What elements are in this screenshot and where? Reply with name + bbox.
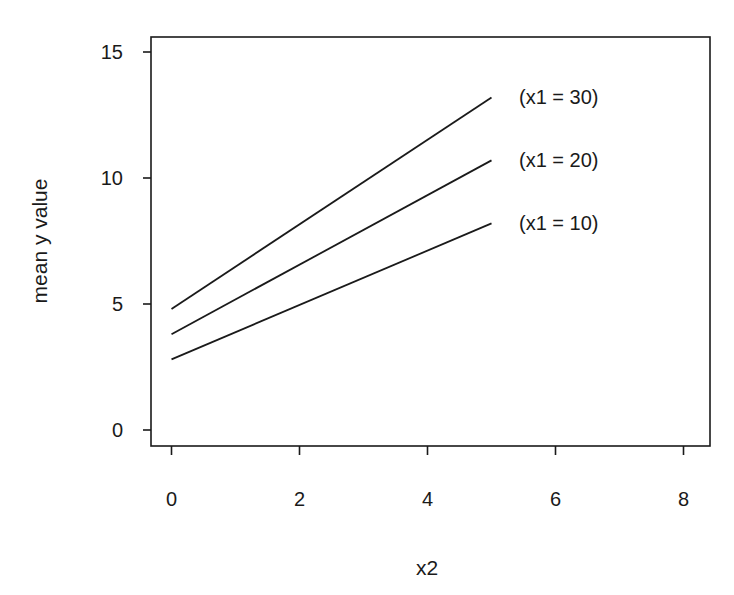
x-tick-label: 0 (166, 488, 177, 510)
x-axis-title: x2 (416, 556, 438, 579)
x-tick-label: 6 (550, 488, 561, 510)
series-line (172, 97, 492, 309)
x-axis: 02468 (166, 446, 689, 510)
plot-border (151, 37, 710, 446)
y-tick-label: 0 (112, 419, 123, 441)
x-tick-label: 2 (294, 488, 305, 510)
series-line (172, 223, 492, 359)
y-tick-label: 5 (112, 293, 123, 315)
plot-frame (151, 37, 710, 446)
series-label: (x1 = 10) (519, 212, 598, 234)
x-tick-label: 8 (678, 488, 689, 510)
chart: 051015 02468 (x1 = 30)(x1 = 20)(x1 = 10)… (0, 0, 734, 595)
series-label: (x1 = 20) (519, 149, 598, 171)
series-labels: (x1 = 30)(x1 = 20)(x1 = 10) (519, 86, 598, 234)
y-tick-label: 15 (101, 41, 123, 63)
series-line (172, 160, 492, 334)
y-axis: 051015 (101, 41, 151, 441)
series-label: (x1 = 30) (519, 86, 598, 108)
x-tick-label: 4 (422, 488, 433, 510)
y-axis-title: mean y value (28, 179, 51, 304)
y-tick-label: 10 (101, 167, 123, 189)
series-lines (172, 97, 492, 359)
